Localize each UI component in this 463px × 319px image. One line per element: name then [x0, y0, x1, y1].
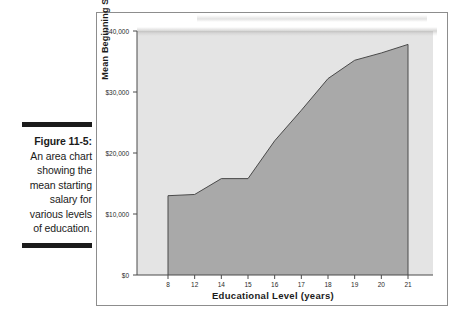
caption-rule-bottom — [22, 243, 92, 248]
figure-container: Figure 11-5: An area chart showing the m… — [0, 0, 463, 319]
y-axis-tick-label: $10,000 — [106, 211, 130, 218]
x-axis-tick-label: 8 — [166, 281, 170, 288]
y-axis-tick-label: $20,000 — [106, 150, 130, 157]
x-axis-tick-label: 20 — [378, 281, 385, 288]
x-axis-tick-label: 17 — [298, 281, 305, 288]
figure-caption-body: An area chart showing the mean starting … — [22, 149, 92, 236]
x-axis-tick-label: 21 — [404, 281, 411, 288]
chart-frame: Mean Beginning Salary Educational Level … — [96, 12, 448, 306]
x-axis-tick-label: 18 — [324, 281, 331, 288]
figure-caption-block: Figure 11-5: An area chart showing the m… — [22, 122, 92, 248]
x-axis-tick-label: 19 — [351, 281, 358, 288]
y-axis-tick-label: $30,000 — [106, 89, 130, 96]
x-axis-tick-label: 15 — [244, 281, 251, 288]
x-axis-tick-label: 12 — [191, 281, 198, 288]
caption-rule-top — [22, 122, 92, 127]
figure-number-label: Figure 11-5: — [22, 134, 92, 149]
y-axis-tick-label: $0 — [122, 272, 129, 279]
y-axis-title: Mean Beginning Salary — [100, 0, 110, 93]
x-axis-tick-label: 16 — [271, 281, 278, 288]
x-axis-title: Educational Level (years) — [97, 290, 449, 301]
y-axis-ticks — [133, 31, 137, 275]
y-axis-tick-label: $40,000 — [106, 28, 130, 35]
area-chart-svg — [97, 13, 449, 307]
x-axis-ticks — [168, 275, 408, 279]
figure-caption-text: Figure 11-5: An area chart showing the m… — [22, 134, 92, 236]
x-axis-tick-label: 14 — [218, 281, 225, 288]
